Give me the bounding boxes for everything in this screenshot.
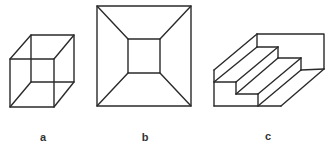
figures-canvas — [0, 0, 333, 154]
nested-squares-figure — [97, 6, 191, 106]
figure-label-c: c — [265, 130, 271, 142]
staircase-figure — [214, 34, 324, 106]
figure-label-b: b — [142, 131, 149, 143]
figure-label-a: a — [40, 131, 46, 143]
necker-cube-figure — [10, 35, 74, 107]
